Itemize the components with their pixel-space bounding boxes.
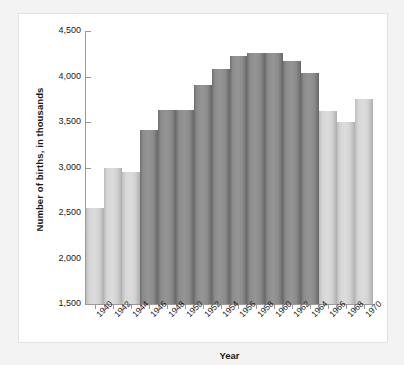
- x-axis-title: Year: [86, 350, 373, 361]
- x-axis-label-slot: 1940: [86, 310, 104, 350]
- x-axis-label-slot: 1960: [265, 310, 283, 350]
- bar: [319, 111, 337, 304]
- bar: [337, 122, 355, 304]
- bar: [140, 130, 158, 304]
- bar: [265, 53, 283, 304]
- bar: [212, 69, 230, 304]
- bar: [86, 208, 104, 304]
- x-axis-label-slot: 1954: [212, 310, 230, 350]
- y-axis-tick-label: 4,000: [58, 71, 81, 81]
- x-axis-label-slot: 1966: [319, 310, 337, 350]
- y-axis-tick-label: 1,500: [58, 298, 81, 308]
- x-axis-label-slot: 1944: [122, 310, 140, 350]
- y-axis-tick: 2,500: [19, 213, 91, 214]
- bar: [230, 56, 248, 304]
- bar: [176, 110, 194, 304]
- x-axis-label-slot: 1962: [283, 310, 301, 350]
- x-axis-label-slot: 1970: [355, 310, 373, 350]
- bar: [158, 110, 176, 304]
- y-axis-tick-label: 2,500: [58, 207, 81, 217]
- y-axis-tick-label: 4,500: [58, 25, 81, 35]
- plot-area: [86, 31, 373, 304]
- y-axis-tick: 4,500: [19, 31, 91, 32]
- bar-chart: Number of births, in thousands 4,5004,00…: [19, 14, 389, 344]
- y-axis-tick: 3,500: [19, 122, 91, 123]
- y-axis-tick: 3,000: [19, 168, 91, 169]
- x-axis-label-slot: 1952: [194, 310, 212, 350]
- bar: [122, 172, 140, 304]
- y-axis-tick: 2,000: [19, 259, 91, 260]
- x-axis-tick-labels: 1940194219441946194819501952195419561958…: [86, 310, 373, 350]
- y-axis-title: Number of births, in thousands: [34, 45, 45, 275]
- bar-series: [86, 31, 373, 304]
- x-axis-label-slot: 1964: [301, 310, 319, 350]
- y-axis-tick: 1,500: [19, 304, 91, 305]
- x-axis-label-slot: 1946: [140, 310, 158, 350]
- x-axis-label-slot: 1948: [158, 310, 176, 350]
- x-axis-label-slot: 1956: [230, 310, 248, 350]
- x-axis-label-slot: 1942: [104, 310, 122, 350]
- bar: [104, 168, 122, 305]
- y-axis-tick-label: 3,000: [58, 162, 81, 172]
- bar: [194, 85, 212, 304]
- bar: [301, 73, 319, 304]
- y-axis-tick: 4,000: [19, 77, 91, 78]
- y-axis-tick-label: 2,000: [58, 253, 81, 263]
- bar: [355, 99, 373, 304]
- x-axis-label-slot: 1958: [247, 310, 265, 350]
- bar: [283, 61, 301, 304]
- y-axis-tick-label: 3,500: [58, 116, 81, 126]
- chart-card: Number of births, in thousands 4,5004,00…: [18, 13, 388, 343]
- x-axis-label-slot: 1950: [176, 310, 194, 350]
- x-axis-label-slot: 1968: [337, 310, 355, 350]
- bar: [247, 53, 265, 304]
